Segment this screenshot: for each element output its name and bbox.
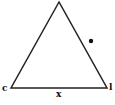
vertex-label-c: c [2,84,7,93]
base-label-x: x [56,90,61,99]
triangle [11,2,107,88]
dot-marker [89,39,93,43]
vertex-label-l: l [109,83,112,92]
